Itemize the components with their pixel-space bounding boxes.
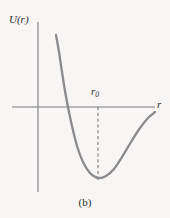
potential-energy-figure: U(r) r r0 (b) <box>0 0 170 218</box>
plot-canvas <box>0 0 170 218</box>
r0-label: r0 <box>91 86 99 99</box>
x-axis-label: r <box>157 99 161 110</box>
y-axis-label: U(r) <box>9 14 29 25</box>
r0-label-subscript: 0 <box>95 90 99 99</box>
figure-caption: (b) <box>0 196 170 208</box>
